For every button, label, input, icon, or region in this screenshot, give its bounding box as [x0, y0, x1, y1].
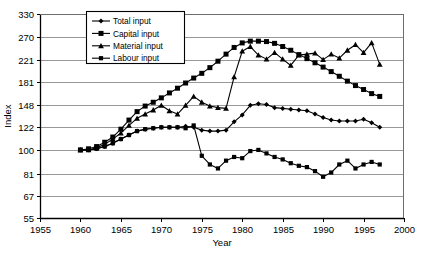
series-marker [239, 48, 245, 53]
legend-label-3: Labour input [113, 53, 160, 63]
series-marker [224, 52, 229, 57]
series-marker [183, 81, 188, 86]
series-marker [207, 65, 212, 70]
series-marker [207, 129, 212, 134]
series-marker [135, 109, 140, 114]
series-marker [248, 39, 253, 44]
series-marker [313, 112, 318, 117]
series-line [80, 104, 379, 150]
legend-label-2: Material input [113, 41, 164, 51]
series-marker [199, 128, 204, 133]
series-marker [272, 50, 278, 55]
series-marker [256, 39, 261, 44]
series-marker [353, 166, 357, 170]
series-marker [143, 127, 147, 131]
series-marker [321, 65, 326, 70]
series-marker [378, 162, 382, 166]
series-marker [167, 125, 171, 129]
series-marker [231, 74, 237, 79]
series-marker [78, 148, 82, 152]
series-marker [337, 162, 341, 166]
series-marker [264, 151, 268, 155]
series-marker [167, 108, 173, 113]
series-marker [288, 48, 293, 53]
series-marker [264, 39, 269, 44]
series-marker [321, 175, 325, 179]
legend-label-1: Capital input [113, 29, 160, 39]
legend-label-0: Total input [113, 16, 152, 26]
series-marker [280, 44, 285, 49]
series-marker [142, 111, 148, 116]
series-marker [361, 117, 366, 122]
y-axis-title: Index [2, 104, 13, 127]
y-tick-label: 81 [23, 169, 34, 180]
series-marker [159, 125, 163, 129]
x-axis-title: Year [212, 237, 231, 248]
series-marker [272, 155, 276, 159]
x-tick-label: 1995 [354, 224, 375, 235]
series-marker [191, 76, 196, 81]
log-line-chart: 5567811001221481812212703301955196019651… [0, 0, 429, 265]
series-marker [321, 115, 326, 120]
y-tick-label: 100 [18, 145, 34, 156]
y-tick-label: 270 [18, 32, 34, 43]
series-marker [369, 91, 374, 96]
x-tick-label: 1970 [151, 224, 172, 235]
series-marker [288, 107, 293, 112]
series-marker [216, 166, 220, 170]
series-marker [200, 154, 204, 158]
series-marker [240, 156, 244, 160]
series-marker [280, 106, 285, 111]
series-marker [256, 148, 260, 152]
series-marker [337, 74, 342, 79]
legend-marker-square-small [99, 56, 103, 60]
series-marker [377, 125, 382, 130]
x-tick-label: 1990 [313, 224, 334, 235]
series-marker [297, 164, 301, 168]
series-marker [224, 159, 228, 163]
series-marker [158, 102, 164, 107]
y-tick-label: 122 [18, 122, 34, 133]
series-marker [191, 94, 197, 99]
series-marker [328, 51, 334, 56]
series-marker [305, 165, 309, 169]
series-line [80, 125, 379, 176]
series-marker [215, 129, 220, 134]
series-marker [337, 118, 342, 123]
series-marker [240, 40, 245, 45]
series-marker [175, 86, 180, 91]
x-tick-label: 1980 [232, 224, 253, 235]
series-marker [313, 169, 317, 173]
series-marker [369, 40, 375, 45]
series-marker [361, 162, 365, 166]
series-marker [345, 118, 350, 123]
series-marker [175, 125, 179, 129]
series-marker [304, 108, 309, 113]
series-marker [86, 148, 90, 152]
series-marker [272, 41, 277, 46]
x-tick-label: 1960 [70, 224, 91, 235]
series-marker [192, 123, 196, 127]
y-tick-label: 148 [18, 100, 34, 111]
series-marker [377, 61, 383, 66]
x-tick-label: 2000 [394, 224, 415, 235]
series-marker [215, 59, 220, 64]
series-marker [353, 118, 358, 123]
series-marker [264, 102, 269, 107]
series-marker [232, 155, 236, 159]
series-marker [159, 95, 164, 100]
series-marker [329, 69, 334, 74]
series-marker [95, 147, 99, 151]
series-marker [370, 160, 374, 164]
x-tick-label: 1965 [111, 224, 132, 235]
legend-marker-square [99, 31, 104, 36]
x-tick-label: 1955 [30, 224, 51, 235]
y-tick-label: 330 [18, 9, 34, 20]
series-marker [289, 161, 293, 165]
series-marker [126, 118, 131, 123]
series-marker [313, 60, 318, 65]
series-marker [248, 149, 252, 153]
series-marker [134, 115, 140, 120]
series-marker [247, 44, 253, 49]
series-marker [127, 133, 131, 137]
